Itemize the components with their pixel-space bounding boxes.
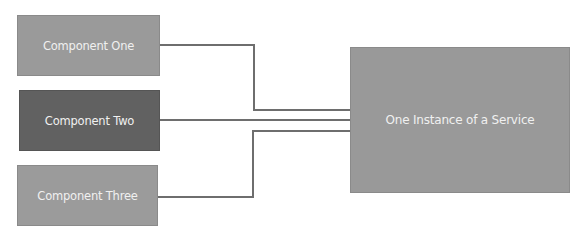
connector-component-one [160, 45, 350, 110]
component-two-box: Component Two [19, 90, 160, 151]
connector-component-three [158, 131, 350, 197]
component-three-box: Component Three [17, 165, 158, 226]
component-one-box: Component One [17, 15, 160, 76]
component-three-label: Component Three [37, 189, 137, 203]
component-two-label: Component Two [45, 114, 134, 128]
component-one-label: Component One [43, 39, 134, 53]
service-instance-label: One Instance of a Service [385, 113, 534, 127]
service-instance-box: One Instance of a Service [350, 47, 570, 193]
